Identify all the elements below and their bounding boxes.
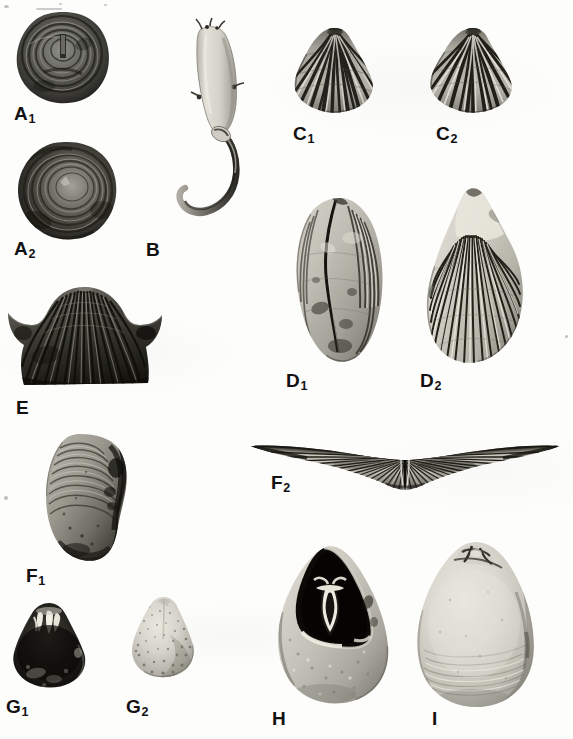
- figure-C1: [292, 26, 378, 114]
- figure-F1: [6, 285, 164, 387]
- scan-smudge: [36, 8, 62, 10]
- figure-label-C2: C2: [436, 124, 457, 143]
- scan-speck: [4, 496, 8, 500]
- figure-label-B: B: [146, 240, 160, 259]
- figure-label-H: H: [272, 709, 286, 728]
- figure-label-G1: G1: [6, 697, 28, 716]
- figure-label-D1: D1: [286, 371, 307, 390]
- figure-label-F2: F1: [26, 566, 45, 585]
- scan-speck: [59, 3, 62, 5]
- figure-D2: [420, 186, 528, 366]
- figure-label-G2: G2: [126, 697, 148, 716]
- figure-C2: [428, 26, 516, 114]
- figure-label-F1: E: [16, 398, 29, 417]
- fossil-plate: A1: [0, 0, 573, 739]
- scan-speck: [4, 5, 9, 8]
- figure-F2: [38, 432, 130, 562]
- figure-label-C1: C1: [293, 124, 314, 143]
- figure-E: [247, 440, 563, 494]
- figure-B: [176, 18, 254, 218]
- figure-A2: [16, 140, 120, 243]
- scan-speck: [565, 335, 568, 338]
- figure-label-I: I: [432, 709, 437, 728]
- figure-A1: [14, 10, 112, 106]
- figure-label-A1: A1: [14, 104, 35, 123]
- figure-I: [410, 540, 540, 708]
- figure-G2: [130, 595, 198, 679]
- figure-G1: [8, 601, 90, 689]
- figure-label-A2: A2: [14, 239, 35, 258]
- figure-D1: [290, 196, 386, 364]
- figure-label-E: F2: [271, 473, 290, 492]
- figure-H: [268, 544, 396, 704]
- scan-speck: [104, 4, 107, 6]
- figure-label-D2: D2: [420, 371, 441, 390]
